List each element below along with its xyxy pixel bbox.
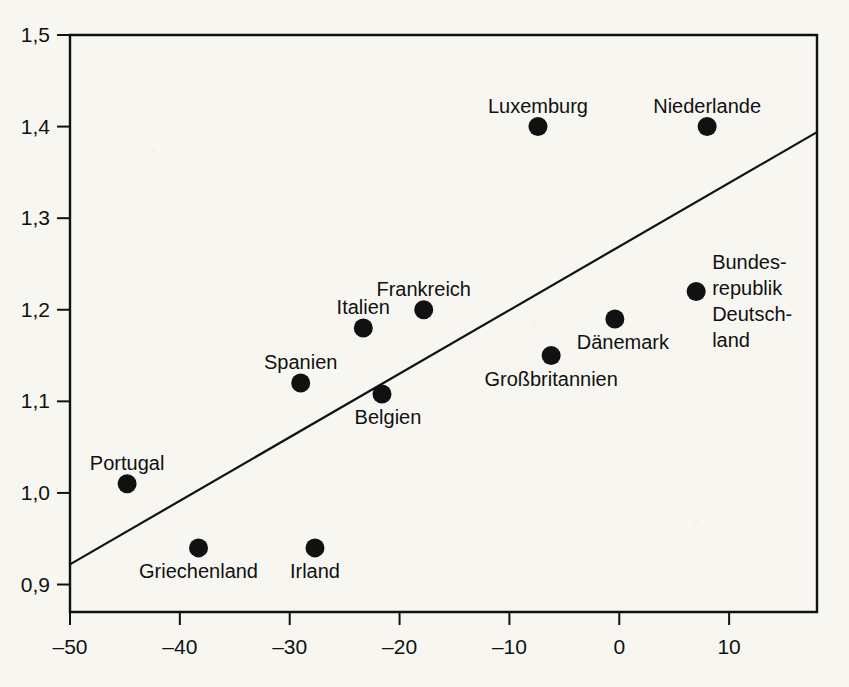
x-tick-label: –40 bbox=[162, 635, 197, 658]
data-point bbox=[528, 117, 547, 136]
x-tick-label: 10 bbox=[717, 635, 740, 658]
data-point-label: Spanien bbox=[264, 351, 337, 373]
data-point-label: Großbritannien bbox=[484, 368, 617, 390]
data-point bbox=[305, 538, 324, 557]
data-point-label: Portugal bbox=[90, 452, 165, 474]
y-tick-label: 1,4 bbox=[21, 115, 51, 138]
plot-area: 0,91,01,11,21,31,41,5–50–40–30–20–10010 … bbox=[0, 0, 849, 687]
data-point-label: Griechenland bbox=[139, 560, 258, 582]
x-tick-label: –10 bbox=[492, 635, 527, 658]
scatter-chart: 0,91,01,11,21,31,41,5–50–40–30–20–10010 … bbox=[0, 0, 849, 687]
data-point-labels: PortugalGriechenlandSpanienIrlandItalien… bbox=[90, 95, 792, 582]
data-point bbox=[698, 117, 717, 136]
data-point bbox=[189, 538, 208, 557]
y-tick-label: 1,0 bbox=[21, 481, 50, 504]
data-point-label: Luxemburg bbox=[488, 95, 588, 117]
data-point-label: Frankreich bbox=[376, 278, 470, 300]
y-tick-label: 1,5 bbox=[21, 23, 50, 46]
chart-title bbox=[0, 0, 849, 6]
y-tick-label: 0,9 bbox=[21, 573, 50, 596]
x-tick-label: 0 bbox=[613, 635, 625, 658]
data-point-label: Niederlande bbox=[653, 95, 761, 117]
regression-line bbox=[70, 132, 817, 564]
y-tick-label: 1,2 bbox=[21, 298, 50, 321]
data-point bbox=[372, 385, 391, 404]
data-point-label: Dänemark bbox=[577, 331, 670, 353]
data-point bbox=[118, 474, 137, 493]
trend-line bbox=[70, 132, 817, 564]
x-tick-label: –50 bbox=[52, 635, 87, 658]
data-point bbox=[687, 282, 706, 301]
x-tick-label: –30 bbox=[272, 635, 307, 658]
data-point bbox=[542, 346, 561, 365]
x-tick-label: –20 bbox=[382, 635, 417, 658]
y-tick-label: 1,3 bbox=[21, 206, 50, 229]
data-point-label: Belgien bbox=[355, 406, 422, 428]
y-tick-label: 1,1 bbox=[21, 389, 50, 412]
data-point bbox=[354, 319, 373, 338]
data-point bbox=[291, 374, 310, 393]
data-point bbox=[414, 300, 433, 319]
data-point bbox=[605, 309, 624, 328]
data-point-label: Irland bbox=[290, 560, 340, 582]
data-point-label: Bundes-republikDeutsch-land bbox=[712, 251, 792, 351]
